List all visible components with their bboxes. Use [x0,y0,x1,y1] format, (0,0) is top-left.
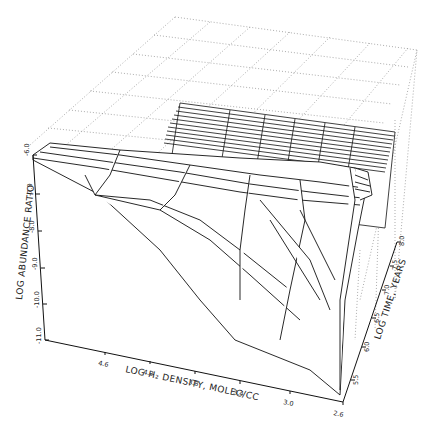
x-tick: 4.6 [98,359,110,369]
surface-plot: -6.0 -7.0 -8.0 -9.0 -10.0 -11.0 LOG ABUN… [0,0,427,426]
y-tick: 5.5 [352,375,360,385]
z-tick: -9.0 [31,257,39,270]
y-tick: 8.0 [398,236,406,246]
x-tick: 2.6 [333,409,345,419]
z-tick: -10.0 [33,291,41,308]
z-axis-line [33,155,45,340]
z-tick: -6.0 [23,143,31,156]
surface-mesh [33,143,372,395]
x-tick: 3.0 [283,398,295,408]
y-tick: 6.0 [363,342,371,352]
z-tick: -11.0 [35,327,43,344]
z-axis-title: LOG ABUNDANCE RATIO [14,184,36,300]
